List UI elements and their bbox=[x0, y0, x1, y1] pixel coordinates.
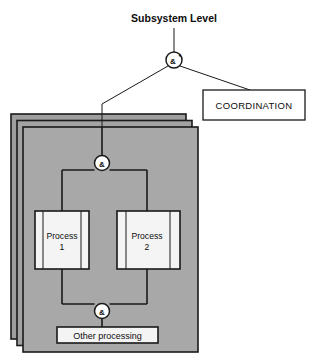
process-1-label-line2: 1 bbox=[60, 242, 65, 252]
process-1-box[interactable]: Process 1 bbox=[35, 211, 89, 269]
process-1-label-line1: Process bbox=[46, 231, 77, 241]
process-2-label-line1: Process bbox=[131, 231, 162, 241]
process-2-label-line2: 2 bbox=[145, 242, 150, 252]
top-and-gate-marker: * bbox=[179, 52, 182, 61]
other-processing-box[interactable]: Other processing bbox=[57, 327, 158, 343]
coordination-label: COORDINATION bbox=[216, 100, 293, 111]
middle-and-gate-label: & bbox=[99, 160, 105, 169]
process-2-box[interactable]: Process 2 bbox=[117, 211, 180, 269]
top-and-gate-label: & bbox=[170, 57, 176, 66]
diagram-canvas: Subsystem Level & * COORDINATION bbox=[0, 0, 315, 362]
bottom-and-gate-node[interactable]: & bbox=[95, 304, 110, 319]
top-and-gate-node[interactable]: & * bbox=[166, 52, 182, 68]
page-title: Subsystem Level bbox=[131, 12, 217, 24]
bottom-and-gate-label: & bbox=[99, 308, 105, 317]
other-processing-label: Other processing bbox=[73, 331, 142, 341]
subsystem-level-diagram: Subsystem Level & * COORDINATION bbox=[0, 0, 315, 362]
coordination-box[interactable]: COORDINATION bbox=[203, 90, 305, 120]
middle-and-gate-node[interactable]: & bbox=[95, 156, 110, 171]
connector-top-gate-to-coordination bbox=[180, 66, 250, 90]
